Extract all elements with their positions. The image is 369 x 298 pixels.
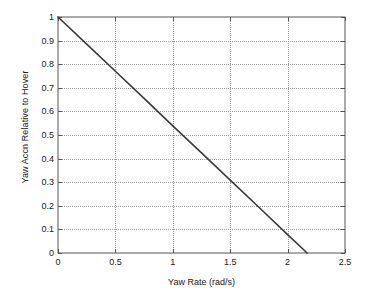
x-tick-label: 0 [55, 258, 60, 267]
x-tick-label: 1 [170, 258, 175, 267]
y-axis-title: Yaw Accn Relative to Hover [14, 0, 36, 253]
plot-background [58, 17, 345, 253]
x-tick-label: 2.5 [339, 258, 352, 267]
x-axis-title: Yaw Rate (rad/s) [58, 277, 345, 287]
x-tick-label: 0.5 [109, 258, 122, 267]
chart-plot-area [0, 0, 369, 298]
chart-figure: 00.10.20.30.40.50.60.70.80.91 00.511.522… [0, 0, 369, 298]
x-tick-label: 2 [285, 258, 290, 267]
x-tick-label: 1.5 [224, 258, 237, 267]
y-axis-title-text: Yaw Accn Relative to Hover [20, 70, 30, 183]
